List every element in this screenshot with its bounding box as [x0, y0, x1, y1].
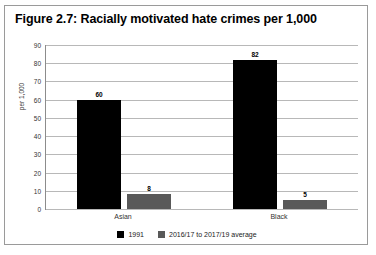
y-axis-tick-labels: 9080706050403020100	[13, 45, 41, 209]
y-axis-tick-label: 50	[15, 114, 41, 121]
legend-label: 2016/17 to 2017/19 average	[169, 231, 257, 238]
gridline	[46, 63, 358, 64]
chart-plot-wrapper: per 1,000 9080706050403020100 608825 Asi…	[5, 33, 369, 245]
bar-value-label: 82	[251, 51, 258, 58]
y-axis-tick-label: 60	[15, 96, 41, 103]
gridline	[46, 209, 358, 210]
legend-item[interactable]: 2016/17 to 2017/19 average	[158, 231, 257, 238]
bar-value-label: 60	[95, 91, 102, 98]
y-axis-tick-label: 20	[15, 169, 41, 176]
bar	[77, 100, 121, 209]
chart-legend: 19912016/17 to 2017/19 average	[5, 231, 369, 238]
legend-swatch-icon	[117, 231, 124, 238]
legend-label: 1991	[128, 231, 144, 238]
x-axis-category-label: Asian	[114, 213, 132, 220]
y-axis-tick-label: 30	[15, 151, 41, 158]
bar-value-label: 5	[303, 191, 307, 198]
legend-swatch-icon	[158, 231, 165, 238]
figure-title: Figure 2.7: Racially motivated hate crim…	[15, 12, 317, 26]
figure-frame: Figure 2.7: Racially motivated hate crim…	[4, 5, 368, 245]
y-axis-tick-label: 70	[15, 78, 41, 85]
plot-area: 608825	[45, 45, 358, 210]
bar	[127, 194, 171, 209]
x-axis-category-label: Black	[270, 213, 287, 220]
y-axis-tick-label: 40	[15, 133, 41, 140]
gridline	[46, 45, 358, 46]
y-axis-tick-label: 80	[15, 60, 41, 67]
bar-value-label: 8	[147, 185, 151, 192]
bar	[233, 60, 277, 209]
y-axis-tick-label: 0	[15, 206, 41, 213]
bar	[283, 200, 327, 209]
y-axis-tick-label: 90	[15, 42, 41, 49]
x-axis-category-labels: AsianBlack	[45, 213, 357, 227]
legend-item[interactable]: 1991	[117, 231, 144, 238]
y-axis-tick-label: 10	[15, 187, 41, 194]
gridline	[46, 81, 358, 82]
